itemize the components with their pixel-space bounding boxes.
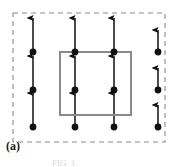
lattice-site-dot bbox=[30, 49, 37, 56]
lattice-site-dots-group bbox=[30, 49, 162, 131]
lattice-site-dot bbox=[30, 124, 37, 131]
lattice-site-dot bbox=[72, 87, 79, 94]
caption-fragment-text: FIG. 1. bbox=[52, 159, 162, 167]
lattice-site-dot bbox=[111, 49, 118, 56]
lattice-site-dot bbox=[30, 87, 37, 94]
solid-unit-cell-rectangle bbox=[60, 52, 131, 115]
panel-label-a: (a) bbox=[6, 140, 20, 152]
figure-canvas bbox=[0, 0, 178, 167]
dashed-supercell-boundary bbox=[13, 13, 165, 142]
spin-lattice-figure-panel-a: (a) FIG. 1. bbox=[0, 0, 178, 167]
lattice-site-dot bbox=[155, 49, 162, 56]
lattice-site-dot bbox=[111, 124, 118, 131]
lattice-site-dot bbox=[155, 124, 162, 131]
lattice-site-dot bbox=[72, 49, 79, 56]
lattice-site-dot bbox=[111, 87, 118, 94]
lattice-site-dot bbox=[72, 124, 79, 131]
lattice-site-dot bbox=[155, 87, 162, 94]
spin-arrows-group bbox=[33, 18, 158, 127]
